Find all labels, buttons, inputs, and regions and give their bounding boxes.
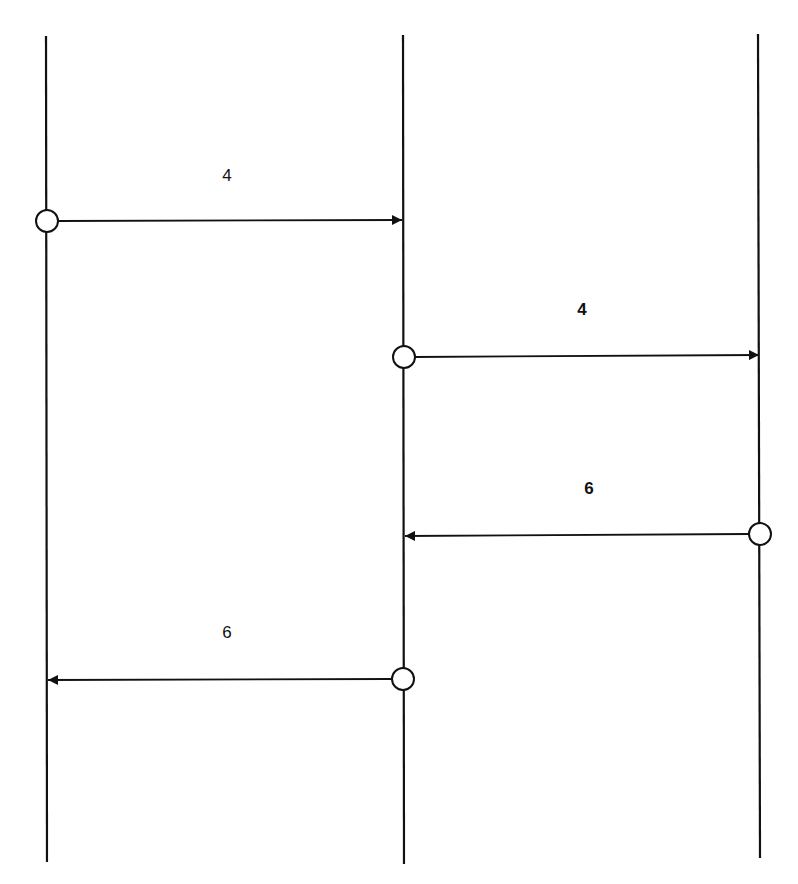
- send-circle-icon: [392, 668, 414, 690]
- message-3-label: 6: [584, 479, 593, 499]
- message-4-label: 6: [222, 623, 231, 643]
- message-1-label: 4: [222, 166, 231, 186]
- message-1: [36, 210, 402, 232]
- sequence-diagram: [0, 0, 798, 884]
- message-3: [405, 523, 771, 545]
- message-4: [48, 668, 414, 690]
- send-circle-icon: [36, 210, 58, 232]
- lifeline-3: [758, 34, 760, 858]
- message-2: [393, 346, 759, 368]
- lifeline-2: [403, 35, 404, 864]
- send-circle-icon: [393, 346, 415, 368]
- send-circle-icon: [749, 523, 771, 545]
- message-2-label: 4: [577, 300, 586, 320]
- lifeline-1: [46, 36, 47, 862]
